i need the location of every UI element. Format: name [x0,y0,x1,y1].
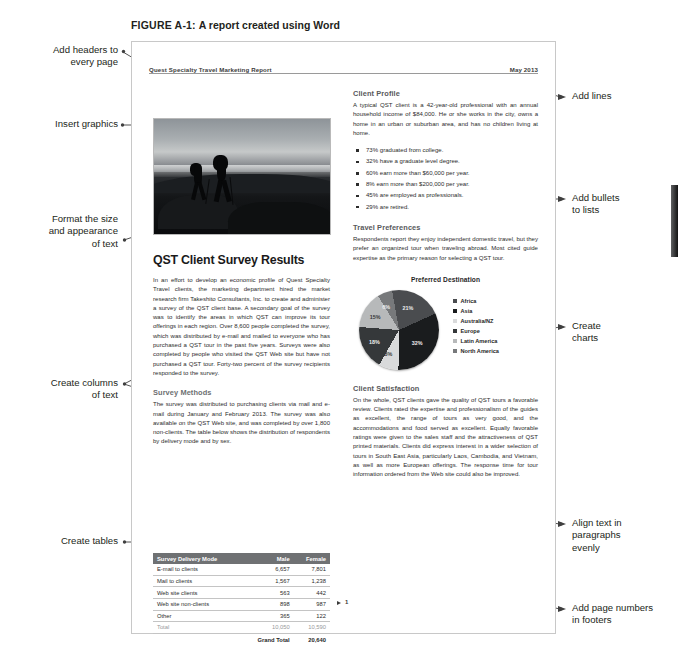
footer-arrow-icon [337,601,341,605]
legend-item: Australia/NZ [453,318,499,324]
survey-methods-heading: Survey Methods [153,388,330,397]
right-column: Client Profile A typical QST client is a… [353,89,538,480]
callout-format-text: Format the sizeand appearanceof text [8,213,118,250]
legend-label: Latin America [461,338,498,344]
cell-female: 7,801 [294,564,330,575]
list-item: 45% are employed as professionals. [353,190,538,201]
table-row: Mail to clients 1,567 1,238 [153,575,330,587]
client-satisfaction-heading: Client Satisfaction [353,384,538,393]
client-profile-heading: Client Profile [353,89,538,98]
header-right-date: May 2013 [510,66,538,73]
legend-item: Latin America [453,338,499,344]
legend-swatch-icon [453,339,457,343]
header-horizontal-rule [149,73,538,74]
pie-label-north-america: 6% [382,304,390,310]
cell-grand-total-label: Grand Total [242,633,294,645]
table-header-row: Survey Delivery Mode Male Female [153,553,330,564]
col-header-female: Female [294,553,330,564]
cell-female: 122 [294,610,330,622]
legend-swatch-icon [453,349,457,353]
callout-page-numbers: Add page numbersin footers [572,602,678,627]
legend-item: Africa [453,298,499,304]
legend-label: North America [461,348,499,354]
figure-stage: FIGURE A-1: A report created using Word [0,0,678,671]
cell-total-label: Total [153,622,242,634]
figure-title: A report created using Word [199,19,340,31]
client-profile-body: A typical QST client is a 42-year-old pr… [353,101,538,138]
page-edge-tab [671,185,678,257]
survey-results-heading: QST Client Survey Results [153,253,330,267]
cell-male: 365 [242,610,294,622]
header-left-text: Quest Specialty Travel Marketing Report [149,66,272,73]
preferred-destination-chart: Preferred Destination 21% 32% 8% 18% 15%… [353,276,538,376]
callout-align-text: Align text inparagraphsevenly [572,517,676,554]
col-header-male: Male [242,553,294,564]
list-item: 8% earn more than $200,000 per year. [353,179,538,190]
pie-graphic: 21% 32% 8% 18% 15% 6% [359,290,439,370]
legend-label: Asia [461,308,473,314]
callout-insert-graphics: Insert graphics [10,118,118,130]
cell-male: 6,657 [242,564,294,575]
cell-mode: Web site clients [153,587,242,599]
table-row: Other 365 122 [153,610,330,622]
col-header-mode: Survey Delivery Mode [153,553,242,564]
cell-mode: Other [153,610,242,622]
cell-female: 987 [294,598,330,610]
legend-item: North America [453,348,499,354]
document-header: Quest Specialty Travel Marketing Report … [149,66,538,82]
callout-create-tables: Create tables [10,535,118,547]
table-grand-total-row: Grand Total 20,640 [153,633,330,645]
callout-add-headers: Add headers toevery page [10,44,118,69]
cell-female: 442 [294,587,330,599]
cell-total-male: 10,050 [242,622,294,634]
legend-swatch-icon [453,319,457,323]
pie-label-europe: 18% [369,339,380,345]
list-item: 60% earn more than $60,000 per year. [353,168,538,179]
legend-swatch-icon [453,309,457,313]
travel-preferences-body: Respondents report they enjoy independen… [353,235,538,263]
survey-results-intro: In an effort to develop an economic prof… [153,276,330,378]
cell-grand-total-value: 20,640 [294,633,330,645]
travel-preferences-heading: Travel Preferences [353,223,538,232]
cell-female: 1,238 [294,575,330,587]
callout-create-columns: Create columnsof text [10,377,118,402]
legend-swatch-icon [453,299,457,303]
cell-mode: Mail to clients [153,575,242,587]
legend-label: Africa [461,298,477,304]
legend-swatch-icon [453,329,457,333]
client-profile-bullets: 73% graduated from college. 32% have a g… [353,145,538,213]
list-item: 32% have a graduate level degree. [353,156,538,167]
callout-add-lines: Add lines [572,90,676,102]
survey-delivery-table: Survey Delivery Mode Male Female E-mail … [153,553,330,645]
table-row: E-mail to clients 6,657 7,801 [153,564,330,575]
table-row: Web site clients 563 442 [153,587,330,599]
cell-male: 1,567 [242,575,294,587]
callout-add-bullets: Add bulletsto lists [572,192,676,217]
legend-label: Europe [461,328,480,334]
cell-mode: Web site non-clients [153,598,242,610]
chart-legend: Africa Asia Australia/NZ [453,298,499,359]
legend-item: Asia [453,308,499,314]
table-total-row: Total 10,050 10,590 [153,622,330,634]
document-page: Quest Specialty Travel Marketing Report … [131,41,556,634]
cell-mode: E-mail to clients [153,564,242,575]
list-item: 29% are retired. [353,202,538,213]
pie-label-australia-nz: 8% [384,351,392,357]
figure-label: FIGURE A-1: [131,19,196,31]
survey-methods-body: The survey was distributed to purchasing… [153,400,330,446]
cell-total-female: 10,590 [294,622,330,634]
hikers-photo [153,118,331,235]
table-row: Web site non-clients 898 987 [153,598,330,610]
callout-create-charts: Createcharts [572,320,676,345]
pie-label-asia: 32% [412,340,423,346]
cell-male: 898 [242,598,294,610]
client-satisfaction-body: On the whole, QST clients gave the quali… [353,396,538,480]
pie-label-latin-america: 15% [370,314,381,320]
footer-page-number: 1 [345,599,348,605]
pie-disc [359,290,439,370]
cell-male: 563 [242,587,294,599]
legend-label: Australia/NZ [461,318,494,324]
figure-caption: FIGURE A-1: A report created using Word [131,19,340,31]
pie-label-africa: 21% [403,305,414,311]
chart-title: Preferred Destination [353,276,538,283]
